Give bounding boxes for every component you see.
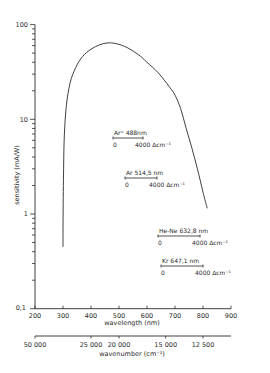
y-tick-label: 0,1: [16, 304, 26, 312]
scale-start: 0: [125, 181, 129, 188]
scale-end: 4000 Δcm⁻¹: [195, 269, 232, 276]
annotation-kr: Kr 647,1 nm04000 Δcm⁻¹: [161, 257, 232, 276]
x-axis-title: wavelength (nm): [104, 319, 159, 327]
x-tick-label: 700: [169, 312, 181, 320]
x-tick-label: 800: [197, 312, 209, 320]
x-tick-label: 300: [57, 312, 69, 320]
x-tick-label: 900: [225, 312, 237, 320]
laser-label: Ar⁺ 488nm: [114, 129, 147, 136]
annotation-hene: He-Ne 632,8 nm04000 Δcm⁻¹: [158, 227, 229, 246]
y-tick-label: 10: [20, 116, 28, 124]
scale-end: 4000 Δcm⁻¹: [135, 141, 172, 148]
laser-label: Kr 647,1 nm: [162, 257, 199, 264]
laser-label: Ar 514,5 nm: [126, 169, 163, 176]
laser-label: He-Ne 632,8 nm: [159, 227, 208, 234]
wavenumber-tick-label: 15 000: [154, 341, 177, 349]
scale-start: 0: [113, 141, 117, 148]
scale-start: 0: [158, 239, 162, 246]
scale-start: 0: [161, 269, 165, 276]
wavenumber-tick-label: 12 500: [192, 341, 215, 349]
scale-end: 4000 Δcm⁻¹: [149, 181, 186, 188]
wavenumber-tick-label: 50 000: [24, 341, 47, 349]
y-tick-label: 100: [16, 21, 28, 29]
wavenumber-tick-label: 20 000: [108, 341, 131, 349]
annotation-ar: Ar⁺ 488nm04000 Δcm⁻¹: [113, 129, 172, 148]
y-axis-title: sensitivity (mA/W): [13, 145, 21, 205]
scale-end: 4000 Δcm⁻¹: [192, 239, 229, 246]
annotation-ar: Ar 514,5 nm04000 Δcm⁻¹: [125, 169, 186, 188]
x-tick-label: 200: [29, 312, 41, 320]
laser-line-annotations: Ar⁺ 488nm04000 Δcm⁻¹Ar 514,5 nm04000 Δcm…: [113, 129, 232, 276]
y-tick-label: 1: [24, 210, 28, 218]
sensitivity-chart: 0,1110100 200300400500600700800900 50 00…: [0, 0, 270, 373]
x-tick-label: 400: [85, 312, 97, 320]
wavenumber-axis-title: wavenumber (cm⁻¹): [99, 350, 165, 358]
x-axis: 200300400500600700800900: [29, 306, 237, 320]
wavenumber-tick-label: 25 000: [80, 341, 103, 349]
wavenumber-axis: 50 00025 00020 00015 00012 500: [24, 336, 231, 349]
